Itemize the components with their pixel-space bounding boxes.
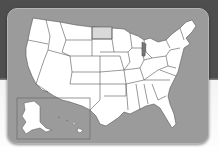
state-alaska bbox=[22, 101, 52, 134]
us-map bbox=[0, 0, 218, 147]
lake-michigan bbox=[142, 42, 146, 56]
state-north-dakota bbox=[92, 27, 112, 39]
state-hawaii bbox=[58, 117, 83, 133]
